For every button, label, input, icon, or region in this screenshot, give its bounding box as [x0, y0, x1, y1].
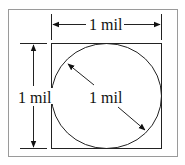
diameter-label: 1 mil	[89, 89, 123, 106]
height-label: 1 mil	[18, 89, 52, 106]
diameter-arrow-lower	[118, 107, 145, 130]
diagram-canvas: 1 mil 1 mil 1 mil	[0, 0, 185, 165]
width-label: 1 mil	[89, 16, 123, 33]
diameter-arrow-upper	[68, 64, 94, 85]
